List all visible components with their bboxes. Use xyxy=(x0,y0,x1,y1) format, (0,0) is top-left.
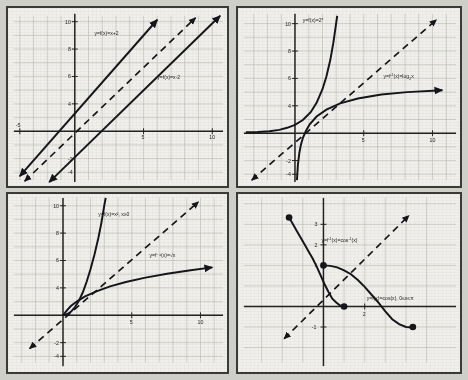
tick-label: 6 xyxy=(56,257,59,263)
plot-area-top-left: -5 5 10 10 8 6 4 -2 -4 y=f(x)=x+2 xyxy=(8,8,227,186)
grid-lines xyxy=(244,14,456,180)
tick-label: 10 xyxy=(285,21,291,27)
graph-panel-top-right: 5 10 10 8 6 4 -2 -4 y=f(x)=2x y=f-1(x)=l… xyxy=(236,6,462,188)
identity-line xyxy=(252,20,437,180)
endpoint-dot xyxy=(286,214,293,221)
tick-label: 8 xyxy=(288,48,291,54)
curve-exponential-2-to-x xyxy=(246,16,337,132)
tick-label: 8 xyxy=(56,230,59,236)
annotation-logarithm: y=f-1(x)=log2x xyxy=(383,73,414,80)
annotation-f-x-minus-2: y=f(x)=x-2 xyxy=(157,74,180,80)
annotation-f-x-plus-2: y=f(x)=x+2 xyxy=(94,30,118,36)
tick-label: 3 xyxy=(315,221,318,227)
tick-label: 5 xyxy=(362,137,365,143)
tick-label: 5 xyxy=(130,319,133,325)
graph-panel-top-left: -5 5 10 10 8 6 4 -2 -4 y=f(x)=x+2 xyxy=(6,6,229,188)
tick-label: 4 xyxy=(68,101,71,107)
tick-label: -5 xyxy=(16,122,21,128)
tick-label: 10 xyxy=(430,137,436,143)
tick-label: -4 xyxy=(54,353,59,359)
plot-area-top-right: 5 10 10 8 6 4 -2 -4 y=f(x)=2x y=f-1(x)=l… xyxy=(238,8,460,186)
axes xyxy=(14,198,223,366)
annotation-cosine: y=f(x)=cos(x), 0≤x≤π xyxy=(367,295,414,301)
tick-label: 4 xyxy=(56,285,59,291)
grid-lines xyxy=(14,16,223,180)
annotation-exponential: y=f(x)=2x xyxy=(303,17,324,23)
tick-label: 2 xyxy=(363,311,366,317)
tick-label: -1 xyxy=(312,324,317,330)
grid-lines xyxy=(244,198,456,362)
axis-ticks xyxy=(292,24,432,175)
tick-label: 10 xyxy=(53,203,59,209)
tick-label: 6 xyxy=(68,73,71,79)
annotation-x-squared: y=f(x)=x², x≥0 xyxy=(98,211,129,217)
tick-label: -2 xyxy=(286,158,291,164)
tick-label: 5 xyxy=(142,134,145,140)
graph-panel-bottom-right: 2 3 2 1 -1 y=f-1(x)=cos-1(x xyxy=(236,192,462,374)
tick-label: 10 xyxy=(65,19,71,25)
endpoint-dot xyxy=(320,262,327,269)
grid-lines xyxy=(14,198,223,362)
tick-label: -4 xyxy=(286,171,291,177)
axes xyxy=(14,14,223,182)
curve-square-root xyxy=(63,267,212,315)
plot-area-bottom-right: 2 3 2 1 -1 y=f-1(x)=cos-1(x xyxy=(238,194,460,372)
identity-line xyxy=(25,18,196,181)
curve-logarithm-log2-x xyxy=(297,90,442,180)
axes xyxy=(244,198,456,366)
figure-page: -5 5 10 10 8 6 4 -2 -4 y=f(x)=x+2 xyxy=(0,0,468,380)
annotation-square-root: y=f⁻¹(x)=√x xyxy=(149,252,175,258)
endpoint-dot xyxy=(341,303,348,310)
graph-panel-bottom-left: 5 10 10 8 6 4 -2 -4 y=f(x)=x², x≥0 y=f⁻¹… xyxy=(6,192,229,374)
annotation-arccos: y=f-1(x)=cos-1(x) xyxy=(321,237,357,243)
plot-area-bottom-left: 5 10 10 8 6 4 -2 -4 y=f(x)=x², x≥0 y=f⁻¹… xyxy=(8,194,227,372)
tick-label: 4 xyxy=(288,103,291,109)
endpoint-dot xyxy=(410,324,417,331)
tick-label: -2 xyxy=(54,340,59,346)
tick-labels: -5 5 10 10 8 6 4 -2 -4 xyxy=(16,19,215,176)
tick-label: 6 xyxy=(288,75,291,81)
tick-label: 8 xyxy=(68,46,71,52)
tick-label: 2 xyxy=(315,242,318,248)
tick-label: 10 xyxy=(209,134,215,140)
tick-label: 10 xyxy=(198,319,204,325)
tick-label-neg4: -4 xyxy=(68,169,73,175)
